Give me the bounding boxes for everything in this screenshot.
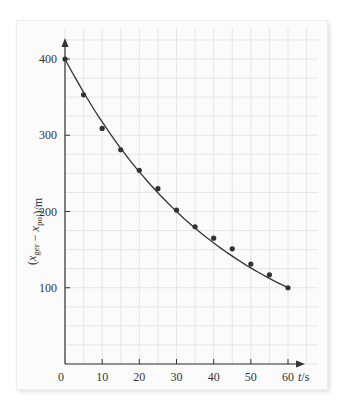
y-tick-label: 400 (39, 52, 57, 66)
x-axis-arrow-icon (296, 361, 305, 368)
data-point (285, 285, 290, 290)
data-point (62, 56, 67, 61)
x-tick-label: 40 (208, 370, 220, 384)
x-tick-label: 50 (245, 370, 257, 384)
x-tick-label: 20 (133, 370, 145, 384)
y-tick-label: 300 (39, 128, 57, 142)
y-axis-label: (xger − xpol)/m (25, 197, 45, 265)
data-point (211, 236, 216, 241)
data-point (174, 207, 179, 212)
data-point (137, 168, 142, 173)
data-point (118, 147, 123, 152)
x-tick-label: 60 (282, 370, 294, 384)
y-tick-label: 100 (39, 281, 57, 295)
data-point (230, 246, 235, 251)
data-point (100, 126, 105, 131)
y-axis-arrow-icon (62, 38, 69, 47)
data-point (267, 272, 272, 277)
data-point (81, 92, 86, 97)
x-tick-label: 0 (58, 370, 64, 384)
chart-plot: 1002003004000102030405060t/s(xger − xpol… (0, 0, 343, 402)
x-tick-label: 30 (171, 370, 183, 384)
data-point (155, 186, 160, 191)
data-point (248, 262, 253, 267)
x-tick-label: 10 (96, 370, 108, 384)
x-axis-label: t/s (298, 370, 310, 384)
data-point (192, 224, 197, 229)
